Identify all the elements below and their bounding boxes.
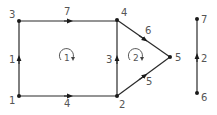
loop-label: 2 bbox=[133, 53, 139, 63]
edge-label: 2 bbox=[201, 53, 207, 64]
edge-6-7: 2 bbox=[197, 19, 207, 93]
edge-2-5: 5 bbox=[117, 57, 170, 96]
graph-diagram: 1 7 4 3 6 5 2 1 bbox=[0, 0, 217, 115]
node-label: 6 bbox=[201, 92, 207, 103]
node-1: 1 bbox=[9, 94, 21, 106]
node-label: 1 bbox=[9, 95, 15, 106]
node-label: 2 bbox=[119, 99, 125, 110]
node-5: 5 bbox=[168, 52, 181, 63]
edge-label: 7 bbox=[64, 6, 70, 17]
edge-label: 5 bbox=[146, 76, 152, 87]
node-4: 4 bbox=[115, 7, 127, 22]
edge-label: 1 bbox=[9, 54, 15, 65]
node-label: 7 bbox=[201, 14, 207, 25]
node-label: 4 bbox=[121, 7, 127, 18]
edge-label: 3 bbox=[106, 54, 112, 65]
edge-3-4: 7 bbox=[19, 6, 117, 21]
edge-4-5: 6 bbox=[117, 20, 170, 57]
edge-label: 6 bbox=[145, 25, 151, 36]
node-label: 3 bbox=[9, 9, 15, 20]
node-3: 3 bbox=[9, 9, 21, 23]
loop-1-marker: 1 bbox=[59, 49, 75, 63]
edge-1-2: 4 bbox=[19, 96, 117, 109]
node-2: 2 bbox=[115, 94, 125, 110]
node-6: 6 bbox=[195, 91, 207, 103]
loop-2-marker: 2 bbox=[128, 49, 144, 63]
edge-2-4: 3 bbox=[106, 20, 117, 96]
node-label: 5 bbox=[175, 52, 181, 63]
edge-1-3: 1 bbox=[9, 21, 19, 96]
loop-label: 1 bbox=[64, 53, 70, 63]
edge-label: 4 bbox=[64, 98, 70, 109]
